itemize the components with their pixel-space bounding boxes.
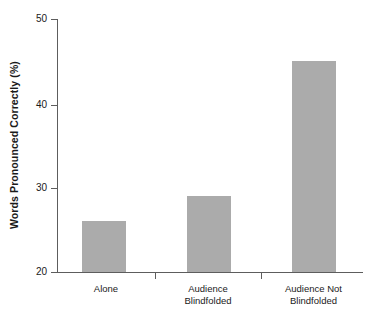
bar-alone	[82, 221, 126, 272]
plot-area	[57, 19, 363, 272]
bar-audience-blindfolded	[187, 196, 231, 272]
x-axis-line	[57, 272, 363, 273]
y-tick-label-40: 40	[36, 98, 47, 112]
y-axis-title: Words Pronounced Correctly (%)	[0, 0, 28, 290]
y-tick-label-20: 20	[36, 265, 47, 279]
x-label-audience-blindfolded: Audience Blindfolded	[155, 283, 261, 306]
x-tick-separator-1	[155, 273, 156, 279]
x-label-audience-not-blindfolded: Audience Not Blindfolded	[261, 283, 366, 306]
bar-chart: Words Pronounced Correctly (%) 20 30 40 …	[0, 0, 378, 313]
y-tick-20: 20	[51, 272, 57, 273]
y-axis-title-text: Words Pronounced Correctly (%)	[8, 61, 20, 229]
x-tick-separator-2	[261, 273, 262, 279]
y-tick-label-50: 50	[36, 12, 47, 26]
y-tick-label-30: 30	[36, 181, 47, 195]
bar-audience-not-blindfolded	[292, 61, 336, 272]
x-label-alone: Alone	[57, 283, 155, 295]
